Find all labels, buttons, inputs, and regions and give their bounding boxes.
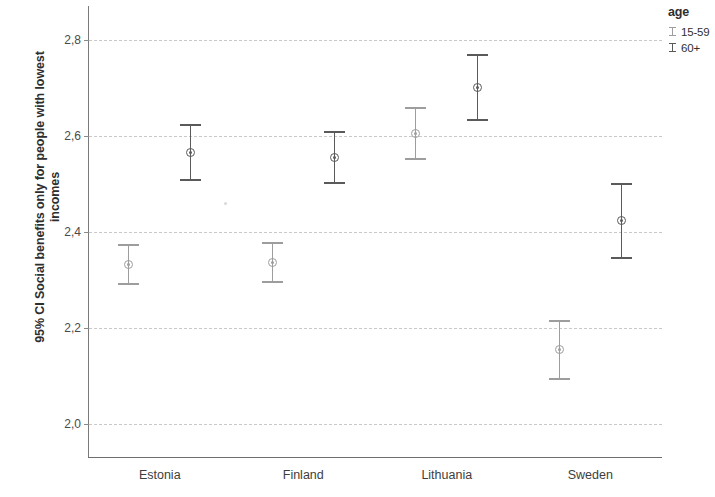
data-point-marker <box>330 153 339 162</box>
y-tick-mark <box>84 40 89 41</box>
error-bar-lower-cap <box>118 283 139 285</box>
data-point-center-dot <box>558 348 561 351</box>
gridline <box>89 232 662 233</box>
error-bar-symbol-icon <box>668 26 677 37</box>
error-bar-sweden-60+ <box>609 182 633 261</box>
legend-title: age <box>668 5 715 19</box>
data-point-marker <box>473 83 482 92</box>
error-bar-estonia-60+ <box>179 123 203 182</box>
error-bar-upper-cap <box>611 183 632 185</box>
data-point-center-dot <box>271 261 274 264</box>
y-tick-label: 2,6 <box>64 129 81 143</box>
error-bar-sweden-15-59 <box>547 319 571 381</box>
error-bar-lower-cap <box>180 179 201 181</box>
legend-label: 15-59 <box>681 26 709 38</box>
error-bar-finland-60+ <box>322 130 346 184</box>
error-bar-upper-cap <box>118 244 139 246</box>
y-axis-title: 95% CI Social benefits only for people w… <box>33 0 63 397</box>
data-point-marker <box>411 129 420 138</box>
error-bar-chart: 95% CI Social benefits only for people w… <box>0 0 715 497</box>
y-tick-label: 2,2 <box>64 321 81 335</box>
y-tick-label: 2,8 <box>64 33 81 47</box>
error-bar-lower-cap <box>262 281 283 283</box>
gridline <box>89 136 662 137</box>
legend-symbol-cap-bot <box>669 35 676 36</box>
data-point-center-dot <box>189 151 192 154</box>
data-point-marker <box>186 148 195 157</box>
error-bar-upper-cap <box>262 242 283 244</box>
error-bar-lithuania-60+ <box>466 53 490 122</box>
error-bar-lower-cap <box>405 158 426 160</box>
x-tick-label-finland: Finland <box>283 468 324 482</box>
x-axis-line <box>88 457 662 458</box>
data-point-center-dot <box>620 219 623 222</box>
data-point-center-dot <box>414 132 417 135</box>
legend-symbol-cap-bot <box>669 51 676 52</box>
y-tick-mark <box>84 328 89 329</box>
error-bar-upper-cap <box>324 131 345 133</box>
y-axis-title-line-2: incomes <box>48 172 62 222</box>
y-tick-mark <box>84 424 89 425</box>
data-point-marker <box>124 260 133 269</box>
error-bar-lower-cap <box>324 182 345 184</box>
error-bar-lower-cap <box>549 378 570 380</box>
legend-items: 15-5960+ <box>668 24 715 55</box>
y-tick-label: 2,4 <box>64 225 81 239</box>
error-bar-upper-cap <box>405 107 426 109</box>
y-tick-mark <box>84 232 89 233</box>
x-tick-label-sweden: Sweden <box>568 468 613 482</box>
data-point-marker <box>268 258 277 267</box>
gridline <box>89 424 662 425</box>
legend-label: 60+ <box>681 42 700 54</box>
legend: age 15-5960+ <box>668 5 715 56</box>
gridline <box>89 40 662 41</box>
y-tick-mark <box>84 136 89 137</box>
error-bar-lower-cap <box>467 119 488 121</box>
legend-item-15-59[interactable]: 15-59 <box>668 24 715 39</box>
y-axis-title-line-1: 95% CI Social benefits only for people w… <box>33 51 47 343</box>
error-bar-symbol-icon <box>668 42 677 53</box>
y-tick-label: 2,0 <box>64 417 81 431</box>
error-bar-lower-cap <box>611 257 632 259</box>
x-tick-label-estonia: Estonia <box>139 468 181 482</box>
error-bar-upper-cap <box>467 54 488 56</box>
data-point-center-dot <box>127 263 130 266</box>
x-tick-label-lithuania: Lithuania <box>421 468 472 482</box>
error-bar-upper-cap <box>549 320 570 322</box>
error-bar-estonia-15-59 <box>117 243 141 286</box>
image-artifact-speck <box>224 202 227 205</box>
data-point-center-dot <box>333 156 336 159</box>
data-point-marker <box>555 345 564 354</box>
plot-area: 2,02,22,42,62,8 EstoniaFinlandLithuaniaS… <box>88 6 662 458</box>
data-point-marker <box>617 216 626 225</box>
legend-item-60+[interactable]: 60+ <box>668 40 715 55</box>
error-bar-upper-cap <box>180 124 201 126</box>
error-bar-finland-15-59 <box>260 241 284 284</box>
gridline <box>89 328 662 329</box>
error-bar-lithuania-15-59 <box>404 106 428 161</box>
data-point-center-dot <box>476 86 479 89</box>
